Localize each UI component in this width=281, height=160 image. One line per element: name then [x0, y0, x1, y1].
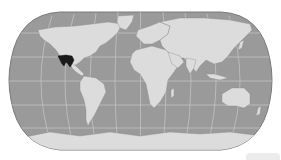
corner-tab — [246, 153, 280, 160]
world-map-svg — [0, 0, 281, 160]
madagascar — [171, 88, 174, 98]
world-map — [0, 0, 281, 160]
